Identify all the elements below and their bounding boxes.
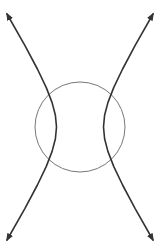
hyperbola-left-branch — [7, 14, 57, 240]
hyperbola-right-branch — [104, 14, 154, 240]
hyperbola-circle-diagram — [0, 0, 160, 241]
